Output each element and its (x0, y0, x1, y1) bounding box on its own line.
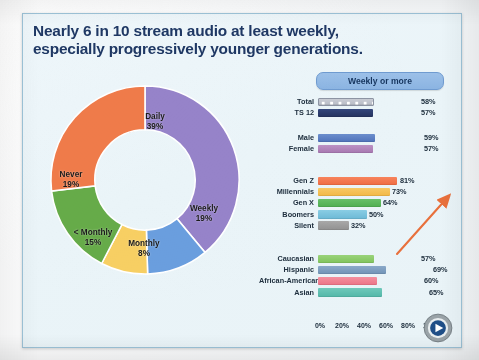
table-row: Female 57% (273, 144, 455, 154)
table-row: African-American 60% (273, 276, 455, 286)
bar-track-female (318, 145, 416, 153)
bar-group-ethnicity: Caucasian 57% Hispanic 69% African-Ameri… (273, 254, 455, 299)
play-button-logo (423, 313, 453, 343)
bar-group-gender: Male 59% Female 57% (273, 133, 455, 155)
donut-label-monthly-text: Monthly (128, 239, 159, 248)
bar-group-overall: Total 58% TS 12 57% (273, 97, 455, 119)
bar-track-total (318, 98, 416, 106)
bar-fill-silent (318, 221, 349, 229)
donut-label-never: Never 19% (47, 170, 95, 190)
bar-value-female: 57% (424, 144, 439, 154)
donut-label-daily-value: 39% (147, 122, 163, 131)
bar-label-millennials: Millennials (273, 187, 314, 197)
bar-value-hispanic: 69% (433, 265, 448, 275)
donut-label-daily: Daily 39% (127, 112, 183, 132)
presentation-slide: Nearly 6 in 10 stream audio at least wee… (22, 13, 462, 348)
donut-label-less-than-monthly-text: < Monthly (74, 228, 112, 237)
x-tick-80: 80% (401, 322, 415, 329)
bar-label-african-american: African-American (259, 276, 314, 286)
bar-label-total: Total (273, 97, 314, 107)
x-tick-20: 20% (335, 322, 349, 329)
x-tick-40: 40% (357, 322, 371, 329)
trend-arrow-line (397, 198, 447, 254)
bar-chart: Weekly or more Total 58% TS 12 57% (273, 72, 455, 340)
trend-arrow-annotation (393, 190, 455, 258)
table-row: Asian 65% (273, 288, 455, 298)
donut-label-never-text: Never (60, 170, 83, 179)
bar-label-female: Female (273, 144, 314, 154)
donut-label-monthly-value: 8% (138, 249, 150, 258)
title-line-2: especially progressively younger generat… (33, 40, 453, 58)
bar-fill-male (318, 134, 375, 142)
bar-label-silent: Silent (273, 221, 314, 231)
weekly-or-more-label: Weekly or more (348, 76, 412, 86)
bar-label-gen-x: Gen X (273, 198, 314, 208)
donut-label-daily-text: Daily (145, 112, 165, 121)
bar-fill-gen-x (318, 199, 381, 207)
bar-label-male: Male (273, 133, 314, 143)
bar-fill-caucasian (318, 255, 374, 263)
donut-label-less-than-monthly-value: 15% (85, 238, 101, 247)
weekly-or-more-header[interactable]: Weekly or more (316, 72, 444, 90)
table-row: Male 59% (273, 133, 455, 143)
table-row: Total 58% (273, 97, 455, 107)
bar-value-boomers: 50% (369, 210, 384, 220)
bar-value-gen-z: 81% (400, 176, 415, 186)
bar-fill-millennials (318, 188, 390, 196)
table-row: TS 12 57% (273, 108, 455, 118)
bar-value-asian: 65% (429, 288, 444, 298)
bar-label-boomers: Boomers (273, 210, 314, 220)
donut-chart: Daily 39% Weekly 19% Monthly 8% < Monthl… (35, 76, 283, 291)
bar-track-ts12 (318, 109, 416, 117)
bar-track-african-american (318, 277, 416, 285)
bar-fill-gen-z (318, 177, 397, 185)
bar-value-silent: 32% (351, 221, 366, 231)
donut-label-never-value: 19% (63, 180, 79, 189)
photographed-slide-page: Nearly 6 in 10 stream audio at least wee… (0, 0, 479, 360)
bar-value-male: 59% (424, 133, 439, 143)
bar-fill-ts12 (318, 109, 373, 117)
bar-label-hispanic: Hispanic (259, 265, 314, 275)
table-row: Gen Z 81% (273, 176, 455, 186)
x-tick-0: 0% (315, 322, 325, 329)
bar-fill-female (318, 145, 373, 153)
bar-label-gen-z: Gen Z (273, 176, 314, 186)
title-line-1: Nearly 6 in 10 stream audio at least wee… (33, 22, 453, 40)
donut-label-weekly-value: 19% (196, 214, 212, 223)
bar-label-caucasian: Caucasian (259, 254, 314, 264)
donut-label-weekly-text: Weekly (190, 204, 218, 213)
donut-label-monthly: Monthly 8% (120, 239, 168, 259)
bar-fill-asian (318, 288, 382, 296)
bar-fill-total (318, 98, 374, 106)
x-tick-60: 60% (379, 322, 393, 329)
donut-label-weekly: Weekly 19% (177, 204, 231, 224)
bar-fill-boomers (318, 210, 367, 218)
bar-fill-hispanic (318, 266, 386, 274)
bar-track-hispanic (318, 266, 416, 274)
bar-label-asian: Asian (259, 288, 314, 298)
x-axis-labels: 0% 20% 40% 60% 80% 100% (318, 322, 430, 332)
bar-track-asian (318, 288, 416, 296)
bar-fill-african-american (318, 277, 377, 285)
bar-value-total: 58% (421, 97, 436, 107)
table-row: Hispanic 69% (273, 265, 455, 275)
bar-track-male (318, 134, 416, 142)
bar-label-ts12: TS 12 (273, 108, 314, 118)
bar-value-african-american: 60% (424, 276, 439, 286)
donut-label-less-than-monthly: < Monthly 15% (64, 228, 122, 248)
page-title: Nearly 6 in 10 stream audio at least wee… (33, 22, 453, 57)
bar-value-ts12: 57% (421, 108, 436, 118)
